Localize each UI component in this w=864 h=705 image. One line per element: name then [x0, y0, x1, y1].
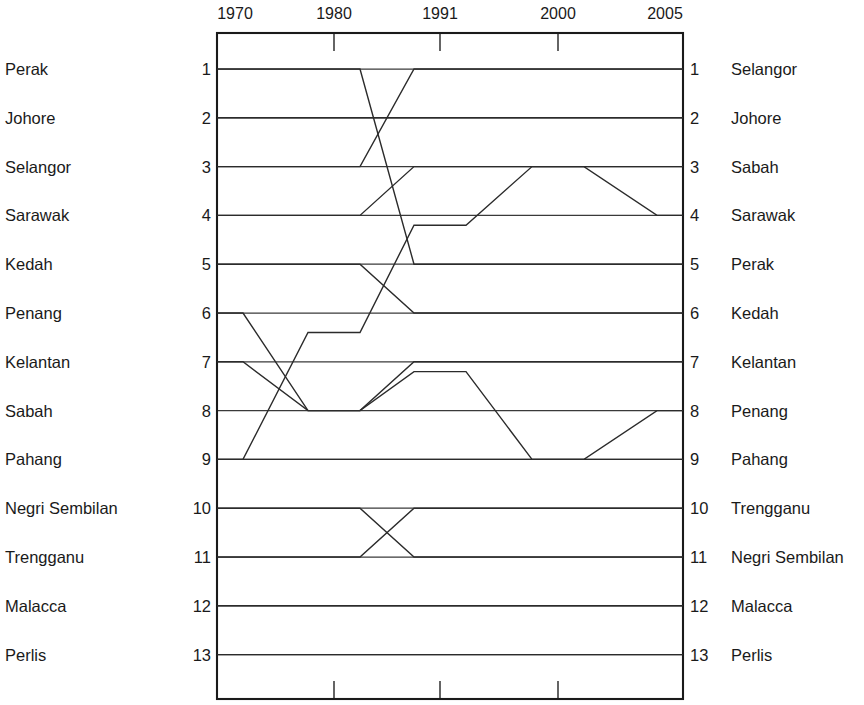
- series-line-trengganu[interactable]: [217, 508, 683, 557]
- right-axis-rank-9: 9: [690, 451, 710, 468]
- left-axis-rank-4: 4: [185, 207, 211, 224]
- x-axis-label-1980: 1980: [299, 6, 369, 22]
- right-axis-label-sarawak: Sarawak: [731, 207, 795, 224]
- x-axis-label-1970: 1970: [200, 6, 270, 22]
- left-axis-label-trengganu: Trengganu: [5, 549, 84, 566]
- left-axis-rank-7: 7: [185, 354, 211, 371]
- right-axis-label-perak: Perak: [731, 256, 774, 273]
- left-axis-rank-9: 9: [185, 451, 211, 468]
- x-axis-label-2005: 2005: [630, 6, 700, 22]
- right-axis-rank-13: 13: [690, 647, 710, 664]
- left-axis-label-sabah: Sabah: [5, 403, 53, 420]
- right-axis-label-trengganu: Trengganu: [731, 500, 810, 517]
- right-axis-rank-8: 8: [690, 403, 710, 420]
- left-axis-rank-5: 5: [185, 256, 211, 273]
- series-line-kedah[interactable]: [217, 264, 683, 313]
- right-axis-label-kelantan: Kelantan: [731, 354, 796, 371]
- right-axis-label-selangor: Selangor: [731, 61, 797, 78]
- right-axis-rank-4: 4: [690, 207, 710, 224]
- right-axis-label-sabah: Sabah: [731, 159, 779, 176]
- left-axis-rank-2: 2: [185, 110, 211, 127]
- rank-chart-root: Perak1Johore2Selangor3Sarawak4Kedah5Pena…: [0, 0, 864, 705]
- left-axis-label-malacca: Malacca: [5, 598, 66, 615]
- left-axis-rank-8: 8: [185, 403, 211, 420]
- left-axis-label-kelantan: Kelantan: [5, 354, 70, 371]
- left-axis-label-sarawak: Sarawak: [5, 207, 69, 224]
- left-axis-label-johore: Johore: [5, 110, 55, 127]
- right-axis-label-pahang: Pahang: [731, 451, 788, 468]
- right-axis-rank-10: 10: [690, 500, 710, 517]
- left-axis-rank-1: 1: [185, 61, 211, 78]
- plot-frame: [217, 33, 683, 699]
- left-axis-rank-10: 10: [185, 500, 211, 517]
- right-axis-rank-5: 5: [690, 256, 710, 273]
- right-axis-rank-12: 12: [690, 598, 710, 615]
- right-axis-label-penang: Penang: [731, 403, 788, 420]
- right-axis-rank-6: 6: [690, 305, 710, 322]
- right-axis-rank-3: 3: [690, 159, 710, 176]
- axis-ticks: [334, 33, 558, 699]
- right-axis-rank-2: 2: [690, 110, 710, 127]
- left-axis-rank-13: 13: [185, 647, 211, 664]
- x-axis-label-1991: 1991: [405, 6, 475, 22]
- left-axis-label-perak: Perak: [5, 61, 48, 78]
- left-axis-rank-3: 3: [185, 159, 211, 176]
- x-axis-label-2000: 2000: [523, 6, 593, 22]
- left-axis-label-penang: Penang: [5, 305, 62, 322]
- series-line-negri-sembilan[interactable]: [217, 508, 683, 557]
- left-axis-rank-6: 6: [185, 305, 211, 322]
- left-axis-label-negri-sembilan: Negri Sembilan: [5, 500, 118, 517]
- left-axis-rank-11: 11: [185, 549, 211, 566]
- left-axis-label-perlis: Perlis: [5, 647, 46, 664]
- left-axis-label-kedah: Kedah: [5, 256, 53, 273]
- right-axis-label-kedah: Kedah: [731, 305, 779, 322]
- right-axis-label-johore: Johore: [731, 110, 781, 127]
- right-axis-label-negri-sembilan: Negri Sembilan: [731, 549, 844, 566]
- series-line-sarawak[interactable]: [217, 167, 683, 216]
- series-line-kelantan[interactable]: [217, 362, 683, 411]
- left-axis-rank-12: 12: [185, 598, 211, 615]
- left-axis-label-selangor: Selangor: [5, 159, 71, 176]
- right-axis-label-malacca: Malacca: [731, 598, 792, 615]
- right-axis-rank-1: 1: [690, 61, 710, 78]
- right-axis-rank-7: 7: [690, 354, 710, 371]
- series-line-penang[interactable]: [217, 313, 683, 459]
- left-axis-label-pahang: Pahang: [5, 451, 62, 468]
- right-axis-rank-11: 11: [690, 549, 710, 566]
- right-axis-label-perlis: Perlis: [731, 647, 772, 664]
